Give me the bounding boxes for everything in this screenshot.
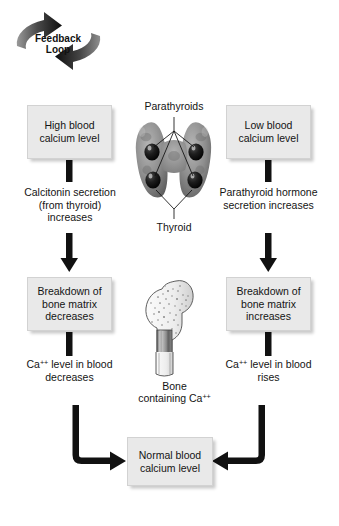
left-stub-2 [66, 332, 73, 356]
parathyroid-glands [144, 143, 203, 188]
left-stub-1 [66, 160, 73, 182]
bone-label-line1: Bone [162, 380, 187, 392]
right-stub-1 [265, 160, 272, 182]
right-arrow-2 [212, 405, 272, 471]
bone-label-line2: containing Ca++ [138, 392, 211, 404]
parathyroid-leader-lines [154, 117, 194, 176]
feedback-loop-line2: Loop [46, 44, 70, 55]
right-arrow-1 [260, 233, 278, 272]
diagram-canvas: Feedback Loop [0, 0, 339, 526]
bone-calcium-charge: ++ [202, 392, 210, 401]
label-calcium-decreases: Ca++ level in blood decreases [21, 358, 118, 383]
right-stub-2 [265, 332, 272, 356]
box-breakdown-increases[interactable]: Breakdown of bone matrix increases [226, 277, 311, 331]
feedback-loop-line1: Feedback [35, 33, 81, 44]
box-normal-blood-calcium[interactable]: Normal blood calcium level [127, 437, 213, 486]
thyroid-leader-lines [156, 190, 192, 219]
bone-label: Bone containing Ca++ [127, 380, 222, 405]
label-calcium-rises: Ca++ level in blood rises [220, 358, 317, 383]
box-low-blood-calcium[interactable]: Low blood calcium level [226, 105, 311, 159]
feedback-loop-caption: Feedback Loop [21, 33, 95, 55]
parathyroids-label: Parathyroids [129, 100, 219, 112]
thyroid-label: Thyroid [142, 221, 206, 233]
left-arrow-2 [66, 405, 126, 471]
label-pth-secretion: Parathyroid hormone secretion increases [219, 186, 318, 211]
box-high-blood-calcium[interactable]: High blood calcium level [27, 105, 112, 159]
left-arrow-1 [61, 233, 79, 272]
box-breakdown-decreases[interactable]: Breakdown of bone matrix decreases [27, 277, 112, 331]
label-calcitonin-secretion: Calcitonin secretion (from thyroid) incr… [16, 186, 124, 224]
